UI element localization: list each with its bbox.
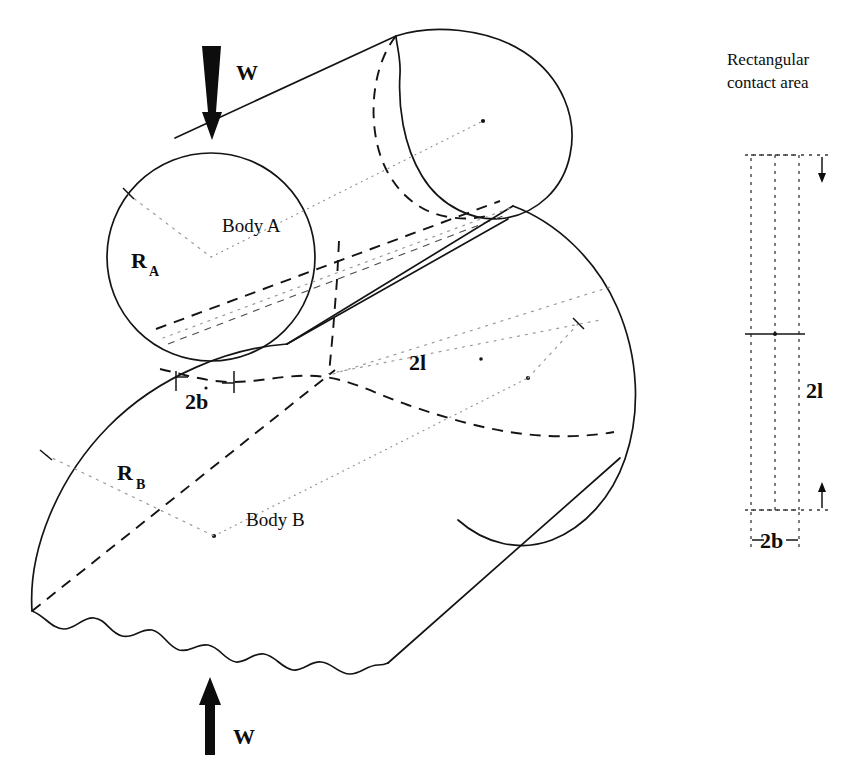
inset-caption-line2: contact area xyxy=(727,73,809,92)
body-b-far-rim-leader xyxy=(528,324,578,378)
dimension-2l-main-label: 2l xyxy=(409,350,426,375)
inset-2l-label: 2l xyxy=(806,378,823,403)
contact-dotted-lower xyxy=(333,287,610,374)
body-b-top-generator xyxy=(287,206,513,344)
radius-b-subscript: B xyxy=(136,477,145,492)
contact-dotted-upper xyxy=(163,207,513,338)
dimension-2b-main-label: 2b xyxy=(185,389,208,414)
body-b-break-line xyxy=(32,611,388,674)
load-arrow-bottom xyxy=(199,677,221,755)
body-a-label: Body A xyxy=(222,215,281,236)
body-a-bottom-generator xyxy=(287,219,508,344)
contact-mechanics-diagram: W W Body A Body B R A R B 2b 2l xyxy=(0,0,848,762)
body-b-near-face xyxy=(32,344,287,611)
body-a-hidden-back-ellipse xyxy=(374,36,490,218)
body-a-far-center-dot xyxy=(481,119,485,123)
body-b-hidden-contact-edge xyxy=(160,369,614,436)
radius-a-label-group: R A xyxy=(131,248,160,279)
dimension-2l-main-dot xyxy=(479,357,483,361)
body-a-axis-line xyxy=(211,121,483,257)
contact-dotted-mid xyxy=(337,320,600,372)
load-arrow-bottom-shape xyxy=(199,677,221,755)
body-b-bottom-generator xyxy=(388,458,620,663)
radius-a-label: R xyxy=(131,248,148,273)
radius-b-dashed-line xyxy=(32,370,335,611)
inset-2b-label: 2b xyxy=(760,528,783,553)
radius-b-label-group: R B xyxy=(117,460,145,492)
load-label-top: W xyxy=(236,60,258,85)
radius-a-subscript: A xyxy=(149,264,160,279)
inset-center-dot xyxy=(773,332,777,336)
load-label-bottom: W xyxy=(233,724,255,749)
body-b-label: Body B xyxy=(246,509,305,530)
body-b-cylinder xyxy=(32,206,636,674)
inset-2l-bottom-arrowhead xyxy=(818,482,826,492)
radius-b-label: R xyxy=(117,460,134,485)
inset-caption-line1: Rectangular xyxy=(727,50,809,69)
figure-root: W W Body A Body B R A R B 2b 2l xyxy=(0,0,848,762)
load-arrow-top-shape xyxy=(202,46,222,140)
body-a-hidden-contact-generator-upper xyxy=(156,201,500,329)
body-b-hidden-vertical-edge xyxy=(329,241,339,374)
radius-b-rim-tick xyxy=(40,450,52,460)
inset-rectangular-contact-area xyxy=(745,155,828,548)
load-arrow-top xyxy=(202,46,222,140)
inset-2l-top-arrowhead xyxy=(818,173,826,183)
body-a-far-face xyxy=(396,29,572,218)
body-b-far-face xyxy=(458,206,635,546)
